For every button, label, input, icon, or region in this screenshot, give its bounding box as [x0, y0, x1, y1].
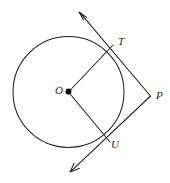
- tangent-ray-through-t: [80, 13, 150, 96]
- radius-segment-o-u: [69, 92, 111, 142]
- tangent-ray-through-u: [71, 96, 150, 171]
- label-center-o: O: [55, 85, 63, 96]
- label-tangent-point-u: U: [111, 139, 119, 150]
- geometry-figure: O T U P: [0, 0, 170, 183]
- radius-segment-o-t: [69, 45, 114, 92]
- label-external-point-p: P: [156, 90, 163, 101]
- center-dot-icon: [66, 89, 72, 95]
- geometry-canvas: [0, 0, 170, 183]
- label-tangent-point-t: T: [118, 36, 124, 47]
